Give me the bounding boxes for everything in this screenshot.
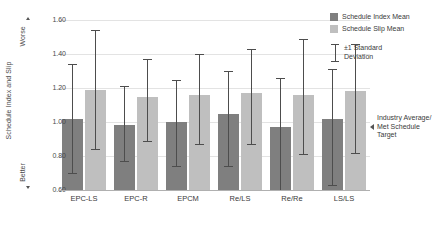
x-axis-tick-label: LS/LS (314, 194, 374, 203)
x-axis-tick-label: EPC-R (106, 194, 166, 203)
error-cap-top-slip (195, 54, 204, 55)
better-direction-text: Better (19, 163, 26, 182)
error-cap-top-slip (299, 39, 308, 40)
y-axis-tick-label: 1.40 (40, 50, 66, 57)
legend-swatch-index-icon (330, 13, 338, 21)
y-axis-tick-label: 1.60 (40, 16, 66, 23)
bar-group (214, 20, 266, 190)
left-arrow-icon (370, 124, 374, 130)
error-cap-top-index (328, 69, 337, 70)
error-bar-slip (251, 49, 252, 144)
worse-direction-text: Worse (19, 26, 26, 46)
error-bar-slip (199, 54, 200, 144)
down-arrow-icon (26, 186, 30, 189)
error-cap-bottom-slip (91, 149, 100, 150)
bar-group (110, 20, 162, 190)
bar-group (266, 20, 318, 190)
schedule-index-slip-chart: Schedule Index and Slip Worse Better 1.6… (0, 0, 438, 227)
up-arrow-icon (26, 17, 30, 20)
error-bar-index (280, 78, 281, 190)
error-cap-bottom-index (68, 173, 77, 174)
legend: Schedule Index Mean Schedule Slip Mean ±… (330, 12, 438, 65)
worse-direction-label: Worse (14, 14, 30, 58)
error-cap-bottom-slip (143, 141, 152, 142)
error-bar-slip (147, 59, 148, 141)
error-cap-top-slip (247, 49, 256, 50)
error-cap-bottom-slip (299, 154, 308, 155)
error-cap-bottom-index (328, 185, 337, 186)
error-cap-bottom-slip (247, 144, 256, 145)
x-axis-tick-label: Re/Re (262, 194, 322, 203)
bar-group (162, 20, 214, 190)
y-axis-tick-label: 0.80 (40, 152, 66, 159)
legend-label-index: Schedule Index Mean (342, 12, 410, 21)
error-cap-bottom-index (120, 161, 129, 162)
error-bar-index (124, 86, 125, 161)
error-bar-index (72, 64, 73, 173)
error-cap-top-index (224, 71, 233, 72)
x-axis-tick-label: EPCM (158, 194, 218, 203)
error-cap-top-index (68, 64, 77, 65)
legend-swatch-slip-icon (330, 25, 338, 33)
y-axis-tick-label: 1.20 (40, 84, 66, 91)
industry-average-annotation: Industry Average/ Met Schedule Target (370, 114, 438, 140)
error-cap-bottom-index (224, 166, 233, 167)
y-axis-title-text: Schedule Index and Slip (6, 61, 13, 139)
error-bar-icon (331, 43, 339, 62)
error-bar-slip (303, 39, 304, 155)
error-cap-bottom-slip (351, 153, 360, 154)
error-bar-index (228, 71, 229, 166)
legend-item-schedule-slip-mean: Schedule Slip Mean (330, 24, 438, 33)
error-cap-top-slip (143, 59, 152, 60)
error-cap-top-index (172, 80, 181, 81)
x-axis-tick-label: Re/LS (210, 194, 270, 203)
error-bar-index (332, 69, 333, 185)
legend-label-slip: Schedule Slip Mean (342, 24, 404, 33)
industry-average-text: Industry Average/ Met Schedule Target (377, 114, 438, 140)
error-cap-top-index (276, 78, 285, 79)
error-bar-slip (95, 30, 96, 149)
error-cap-top-index (120, 86, 129, 87)
error-cap-top-slip (91, 30, 100, 31)
series-layer (58, 20, 370, 190)
error-bar-index (176, 80, 177, 167)
bar-group (58, 20, 110, 190)
plot-area (58, 20, 370, 190)
legend-label-standard-deviation: ±1 Standard Deviation (344, 43, 382, 61)
x-axis-tick-label: EPC-LS (54, 194, 114, 203)
error-cap-bottom-slip (195, 144, 204, 145)
y-axis-tick-label: 1.00 (40, 118, 66, 125)
x-axis-line (58, 190, 370, 191)
legend-item-standard-deviation: ±1 Standard Deviation (330, 43, 438, 62)
error-cap-bottom-index (172, 166, 181, 167)
legend-item-schedule-index-mean: Schedule Index Mean (330, 12, 438, 21)
